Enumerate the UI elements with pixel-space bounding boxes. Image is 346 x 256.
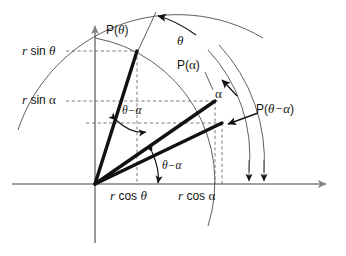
p-diff-symbol: θ−α <box>268 101 290 116</box>
ray-p-alpha <box>95 101 215 184</box>
p-theta-prefix: P( <box>106 23 118 37</box>
label-angle-difference-lower: θ−α <box>162 160 181 172</box>
arc-alpha-measure <box>208 50 250 172</box>
angle-difference-upper-arc <box>116 120 146 132</box>
p-theta-minus-alpha-leader <box>228 113 258 124</box>
sin-text: sin <box>27 44 49 58</box>
ray-p-theta <box>95 51 137 184</box>
radius-rays <box>95 51 222 184</box>
cos-text: cos <box>115 189 140 203</box>
theta-symbol: θ <box>49 43 55 58</box>
p-diff-prefix: P( <box>256 102 268 116</box>
arc-terminal-arrows <box>249 160 264 181</box>
p-alpha-prefix: P( <box>177 58 189 72</box>
cos-text: cos <box>183 189 208 203</box>
projection-guides <box>66 51 225 184</box>
alpha-symbol: α <box>208 188 215 203</box>
alpha-symbol: α <box>49 92 56 107</box>
label-p-theta-minus-alpha: P(θ−α) <box>256 102 294 115</box>
label-r-cos-theta: r cos θ <box>110 189 147 202</box>
diagram-canvas <box>0 0 346 256</box>
label-r-sin-alpha: r sin α <box>22 93 56 106</box>
label-angle-difference-upper: θ−α <box>122 105 141 117</box>
label-p-theta: P(θ) <box>106 23 128 36</box>
alpha-radial-tick <box>205 72 213 90</box>
p-alpha-suffix: ) <box>196 58 200 72</box>
trig-difference-diagram: P(θ) P(α) P(θ−α) r sin θ r sin α r cos θ… <box>0 0 346 256</box>
angle-difference-upper-annotation <box>116 120 146 132</box>
label-r-sin-theta: r sin θ <box>22 44 55 57</box>
label-r-cos-alpha: r cos α <box>178 189 215 202</box>
label-angle-alpha: α <box>215 87 222 100</box>
p-diff-suffix: ) <box>290 102 294 116</box>
theta-arc-radial-tick <box>136 12 156 55</box>
label-p-alpha: P(α) <box>177 58 200 71</box>
sin-text: sin <box>27 93 49 107</box>
p-alpha-symbol: α <box>189 57 196 72</box>
leader-line <box>228 113 258 124</box>
angle-alpha-arc <box>222 80 237 96</box>
label-angle-theta: θ <box>177 34 183 47</box>
theta-symbol: θ <box>140 188 146 203</box>
p-theta-suffix: ) <box>124 23 128 37</box>
